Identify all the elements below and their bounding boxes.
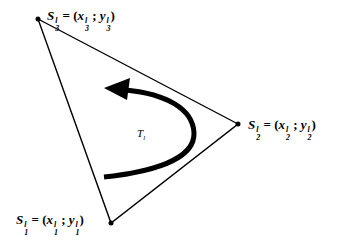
- vertex-s2-dot: [236, 122, 241, 127]
- vertex-s1-label: Sl1 = (xl1 ; yl1): [16, 213, 84, 237]
- vertex-s2-label: Sl2 = (xl2 ; yl2): [248, 118, 316, 142]
- rotation-arrow-head-icon: [104, 78, 130, 100]
- vertex-s1-dot: [109, 221, 114, 226]
- vertex-s3-dot: [36, 17, 41, 22]
- triangle-label: Tl: [137, 127, 145, 142]
- triangle-edges: [38, 19, 238, 223]
- vertex-s3-label: Sl3 = (xl3 ; yl3): [47, 9, 115, 33]
- diagram-canvas: Sl3 = (xl3 ; yl3) Sl2 = (xl2 ; yl2) Sl1 …: [0, 0, 348, 244]
- rotation-arrow-arc: [104, 90, 194, 177]
